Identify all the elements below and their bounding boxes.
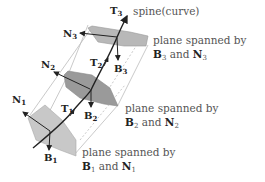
svg-text:plane spanned by: plane spanned by xyxy=(125,102,219,114)
binormal-label-3: B3 xyxy=(114,63,127,76)
binormal-label-2: B2 xyxy=(84,110,97,123)
tangent-label-1: T1 xyxy=(61,103,73,116)
svg-text:B2 and N2: B2 and N2 xyxy=(125,116,179,130)
svg-text:plane spanned by: plane spanned by xyxy=(153,34,247,46)
tangent-label-3: T3 xyxy=(110,5,122,18)
svg-text:plane spanned by: plane spanned by xyxy=(82,146,176,158)
plane-caption-2: plane spanned by B2 and N2 xyxy=(125,102,219,130)
frenet-frame-diagram: T3 spine(curve) T2 T1 N3 N2 N1 B3 B2 B1 … xyxy=(0,0,265,182)
svg-text:B3 and N3: B3 and N3 xyxy=(153,48,207,62)
binormal-label-1: B1 xyxy=(44,152,57,165)
plane-caption-3: plane spanned by B3 and N3 xyxy=(153,34,247,62)
normal-label-2: N2 xyxy=(41,59,55,72)
normal-label-3: N3 xyxy=(63,28,77,41)
normal-label-1: N1 xyxy=(12,94,26,107)
svg-text:B1 and N1: B1 and N1 xyxy=(82,160,136,174)
spine-label: spine(curve) xyxy=(133,5,199,17)
plane-caption-1: plane spanned by B1 and N1 xyxy=(82,146,176,174)
tangent-label-2: T2 xyxy=(90,57,102,70)
